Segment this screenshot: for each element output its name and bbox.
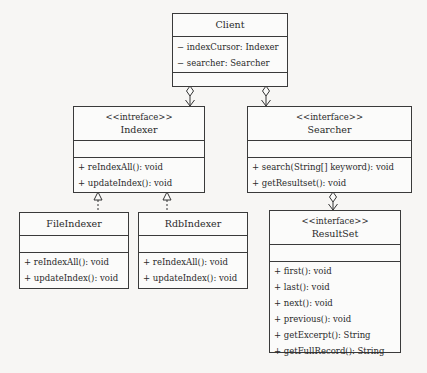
realization-rdbindexer-indexer (163, 192, 171, 212)
class-searcher[interactable]: <<interface>> Searcher + search(String[]… (247, 106, 412, 193)
class-name-section: RdbIndexer (139, 213, 247, 236)
method: + updateIndex(): void (20, 270, 128, 286)
stereotype: <<interface>> (270, 211, 400, 227)
aggregation-client-searcher (262, 86, 271, 106)
attribute: − indexCursor: Indexer (173, 39, 287, 55)
class-name-section: <<interface>> ResultSet (270, 211, 400, 245)
methods-section (173, 73, 287, 86)
method: + updateIndex(): void (74, 175, 204, 191)
class-rdb-indexer[interactable]: RdbIndexer + reIndexAll(): void + update… (138, 212, 248, 289)
method: + updateIndex(): void (139, 270, 247, 286)
class-name-section: <<interface>> Searcher (248, 107, 411, 141)
realization-fileindexer-indexer (94, 192, 102, 212)
attributes-section: − indexCursor: Indexer − searcher: Searc… (173, 37, 287, 73)
class-name-section: <<intreface>> Indexer (74, 107, 204, 141)
class-name: Searcher (248, 123, 411, 137)
aggregation-searcher-resultset (329, 192, 338, 210)
class-client[interactable]: Client − indexCursor: Indexer − searcher… (172, 13, 288, 87)
method: + previous(): void (270, 311, 400, 327)
method: + search(String[] keyword): void (248, 159, 411, 175)
aggregation-client-indexer (186, 86, 195, 106)
method: + reIndexAll(): void (139, 254, 247, 270)
class-name: RdbIndexer (139, 217, 247, 231)
class-file-indexer[interactable]: FileIndexer + reIndexAll(): void + updat… (19, 212, 129, 289)
class-name: ResultSet (270, 227, 400, 241)
method: + next(): void (270, 295, 400, 311)
class-result-set[interactable]: <<interface>> ResultSet + first(): void … (269, 210, 401, 353)
method: + first(): void (270, 263, 400, 279)
attributes-section (270, 245, 400, 262)
methods-section: + search(String[] keyword): void + getRe… (248, 158, 411, 191)
method: + last(): void (270, 279, 400, 295)
methods-section: + reIndexAll(): void + updateIndex(): vo… (139, 253, 247, 286)
class-name: FileIndexer (20, 217, 128, 231)
method: + getFullRecord(): String (270, 343, 400, 359)
class-name-section: Client (173, 14, 287, 37)
attribute: − searcher: Searcher (173, 55, 287, 71)
methods-section: + reIndexAll(): void + updateIndex(): vo… (20, 253, 128, 286)
class-name-section: FileIndexer (20, 213, 128, 236)
method: + reIndexAll(): void (74, 159, 204, 175)
class-name: Client (173, 18, 287, 32)
attributes-section (139, 236, 247, 253)
method: + getResultset(): void (248, 175, 411, 191)
class-indexer[interactable]: <<intreface>> Indexer + reIndexAll(): vo… (73, 106, 205, 193)
method: + reIndexAll(): void (20, 254, 128, 270)
stereotype: <<intreface>> (74, 107, 204, 123)
stereotype: <<interface>> (248, 107, 411, 123)
attributes-section (248, 141, 411, 158)
methods-section: + reIndexAll(): void + updateIndex(): vo… (74, 158, 204, 191)
methods-section: + first(): void + last(): void + next():… (270, 262, 400, 359)
class-name: Indexer (74, 123, 204, 137)
attributes-section (20, 236, 128, 253)
attributes-section (74, 141, 204, 158)
method: + getExcerpt(): String (270, 327, 400, 343)
